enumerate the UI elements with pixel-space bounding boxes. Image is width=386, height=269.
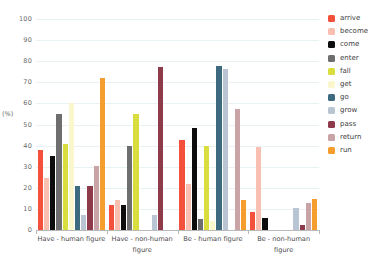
legend-item-grow[interactable]: grow xyxy=(328,104,386,117)
x-axis-tick xyxy=(319,230,320,234)
bar-group xyxy=(36,19,107,230)
legend-label: arrive xyxy=(340,15,360,22)
y-axis: (%) 0102030405060708090100 xyxy=(0,0,36,249)
bar-slot xyxy=(241,19,247,230)
y-axis-tick-label: 70 xyxy=(23,79,32,86)
bar-enter[interactable] xyxy=(198,219,203,230)
legend-label: return xyxy=(340,134,361,141)
bar-group xyxy=(248,19,319,230)
bar-come[interactable] xyxy=(262,218,267,230)
y-axis-title: (%) xyxy=(2,111,13,118)
legend-item-go[interactable]: go xyxy=(328,91,386,104)
x-axis-labels: Have - human figureHave - non-human figu… xyxy=(36,234,319,256)
bar-return[interactable] xyxy=(235,109,240,230)
y-axis-tick-label: 0 xyxy=(28,227,32,234)
legend-label: pass xyxy=(340,121,356,128)
bar-get[interactable] xyxy=(210,221,215,230)
bar-arrive[interactable] xyxy=(179,140,184,230)
y-axis-tick-label: 30 xyxy=(23,163,32,170)
bar-grow[interactable] xyxy=(223,69,228,230)
legend-item-become[interactable]: become xyxy=(328,25,386,38)
x-axis-label: Have - non-human figure xyxy=(107,234,178,256)
y-axis-tick-label: 100 xyxy=(19,16,32,23)
bar-grow[interactable] xyxy=(293,208,298,230)
legend-item-run[interactable]: run xyxy=(328,144,386,157)
legend-swatch-icon xyxy=(328,134,335,141)
y-axis-tick-label: 40 xyxy=(23,142,32,149)
bar-run[interactable] xyxy=(312,199,317,230)
legend-label: fall xyxy=(340,68,351,75)
x-axis-label: Be - human figure xyxy=(178,234,249,256)
y-axis-tick-label: 90 xyxy=(23,37,32,44)
bar-go[interactable] xyxy=(216,66,221,230)
bar-enter[interactable] xyxy=(56,114,61,230)
legend-label: come xyxy=(340,41,359,48)
legend-item-pass[interactable]: pass xyxy=(328,118,386,131)
plot-area xyxy=(36,19,319,230)
legend-swatch-icon xyxy=(328,94,335,101)
legend-item-arrive[interactable]: arrive xyxy=(328,12,386,25)
legend-item-get[interactable]: get xyxy=(328,78,386,91)
legend-label: become xyxy=(340,28,368,35)
bar-become[interactable] xyxy=(115,200,120,230)
bar-run[interactable] xyxy=(100,78,105,230)
bar-enter[interactable] xyxy=(127,146,132,230)
bar-pass[interactable] xyxy=(158,67,163,230)
bar-return[interactable] xyxy=(94,166,99,230)
legend-item-come[interactable]: come xyxy=(328,38,386,51)
bar-pass[interactable] xyxy=(87,186,92,230)
bar-slot xyxy=(99,19,105,230)
bar-group xyxy=(178,19,249,230)
x-axis-label: Have - human figure xyxy=(36,234,107,256)
x-axis-label: Be - non-human figure xyxy=(248,234,319,256)
bar-return[interactable] xyxy=(306,203,311,230)
bar-run[interactable] xyxy=(241,200,246,230)
legend-item-return[interactable]: return xyxy=(328,131,386,144)
bar-come[interactable] xyxy=(50,156,55,230)
y-axis-tick-label: 10 xyxy=(23,206,32,213)
bar-grow[interactable] xyxy=(152,215,157,230)
bar-come[interactable] xyxy=(192,128,197,230)
bar-get[interactable] xyxy=(69,103,74,230)
bar-become[interactable] xyxy=(44,178,49,230)
legend-swatch-icon xyxy=(328,28,335,35)
legend-label: grow xyxy=(340,107,357,114)
bar-arrive[interactable] xyxy=(250,212,255,230)
y-axis-tick-label: 50 xyxy=(23,121,32,128)
bar-arrive[interactable] xyxy=(109,205,114,230)
legend-label: run xyxy=(340,147,352,154)
legend-swatch-icon xyxy=(328,81,335,88)
bar-become[interactable] xyxy=(186,184,191,230)
legend-swatch-icon xyxy=(328,55,335,62)
y-axis-tick-label: 60 xyxy=(23,100,32,107)
bar-fall[interactable] xyxy=(63,144,68,231)
bar-come[interactable] xyxy=(121,205,126,230)
bar-become[interactable] xyxy=(256,147,261,230)
legend-item-fall[interactable]: fall xyxy=(328,65,386,78)
legend-swatch-icon xyxy=(328,41,335,48)
y-axis-tick-label: 80 xyxy=(23,58,32,65)
bar-slot xyxy=(311,19,317,230)
legend-item-enter[interactable]: enter xyxy=(328,52,386,65)
legend-label: go xyxy=(340,94,349,101)
legend-swatch-icon xyxy=(328,15,335,22)
bar-chart: (%) 0102030405060708090100 Have - human … xyxy=(0,0,386,269)
legend-swatch-icon xyxy=(328,68,335,75)
bar-go[interactable] xyxy=(75,186,80,230)
legend-swatch-icon xyxy=(328,121,335,128)
bar-group xyxy=(107,19,178,230)
legend-label: get xyxy=(340,81,352,88)
y-axis-tick-label: 20 xyxy=(23,185,32,192)
legend-swatch-icon xyxy=(328,107,335,114)
bar-groups xyxy=(36,19,319,230)
bar-arrive[interactable] xyxy=(38,150,43,230)
bar-fall[interactable] xyxy=(204,146,209,230)
bar-slot xyxy=(170,19,176,230)
bar-grow[interactable] xyxy=(81,215,86,230)
legend: arrivebecomecomeenterfallgetgogrowpassre… xyxy=(328,12,386,157)
legend-label: enter xyxy=(340,55,359,62)
bar-fall[interactable] xyxy=(133,114,138,230)
legend-swatch-icon xyxy=(328,147,335,154)
